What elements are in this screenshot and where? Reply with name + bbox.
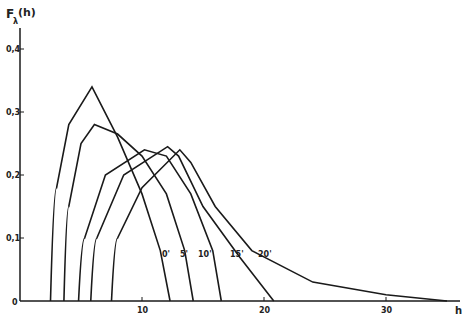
curve-5min [91,147,274,301]
x-tick-label: 20 [259,306,271,315]
x-tick-label: 10 [137,306,149,315]
y-axis-arg: (h) [18,6,36,19]
y-tick-label: 0,1 [6,234,21,243]
origin-label: 0 [12,298,18,307]
series-label: 10' [198,250,212,259]
curve-10min [79,150,222,301]
y-tick-label: 0,2 [6,171,20,180]
series-label: 15' [230,250,244,259]
series-label: 0' [162,250,170,259]
y-tick-label: 0,3 [6,108,20,117]
chart: 1020300,10,20,30,4 20'15'10'5'0' F λ (h)… [0,0,465,320]
axes [20,28,460,301]
x-axis-label: h [455,305,462,316]
curve-0min [112,150,448,301]
y-tick-label: 0,4 [6,45,21,54]
curve-20min [51,87,171,301]
x-tick-label: 30 [381,306,393,315]
series-label: 5' [180,250,188,259]
